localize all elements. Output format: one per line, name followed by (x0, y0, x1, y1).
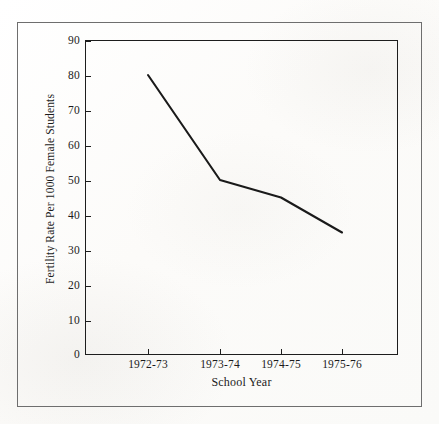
x-tick-mark-1973-74 (220, 349, 221, 355)
y-tick-label-90: 90 (44, 35, 80, 47)
x-tick-mark-1975-76 (342, 349, 343, 355)
chart-figure: 90 80 70 60 50 40 30 20 10 0 Fertility R… (0, 0, 439, 424)
x-tick-mark-1972-73 (148, 349, 149, 355)
y-tick-label-0: 0 (44, 349, 80, 361)
x-tick-label-1972-73: 1972-73 (108, 358, 188, 371)
x-tick-mark-1974-75 (281, 349, 282, 355)
y-axis-title: Fertility Rate Per 1000 Female Students (44, 79, 56, 299)
plot-area (85, 40, 398, 355)
x-axis-title: School Year (85, 375, 398, 390)
data-series-line (85, 40, 398, 355)
x-tick-label-1975-76: 1975-76 (302, 358, 382, 371)
y-tick-label-10: 10 (44, 315, 80, 327)
